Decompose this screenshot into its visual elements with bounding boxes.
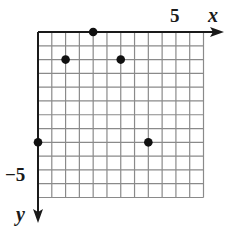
x-axis-label: x [207,4,218,26]
axes [33,27,224,223]
data-point [34,138,43,147]
x-tick-label-5: 5 [170,5,180,26]
data-point [89,28,98,37]
coordinate-grid-chart: 5 x −5 y [0,0,229,245]
y-axis-label: y [14,203,25,226]
data-point [61,55,70,64]
data-point [116,55,125,64]
y-tick-label-neg5: −5 [5,164,25,185]
data-point [144,138,153,147]
